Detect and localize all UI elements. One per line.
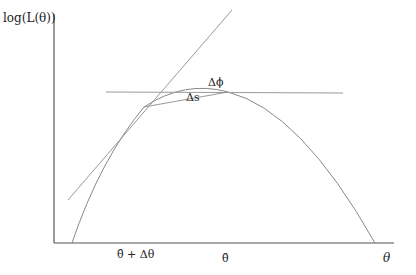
y-axis-label: log(L(θ)) bbox=[3, 11, 56, 25]
tick-theta-hat-plus-delta: θ̂ + Δθ bbox=[117, 248, 155, 261]
likelihood-diagram: log(L(θ)) θ θ̂ + Δθ θ̂ Δϕ Δs bbox=[0, 0, 416, 275]
tick-theta-hat: θ̂ bbox=[222, 252, 229, 265]
tangent-line bbox=[68, 10, 232, 200]
delta-s-label: Δs bbox=[186, 91, 200, 104]
delta-phi-label: Δϕ bbox=[208, 76, 224, 89]
log-likelihood-curve bbox=[72, 88, 375, 243]
x-axis-label: θ bbox=[383, 251, 391, 265]
